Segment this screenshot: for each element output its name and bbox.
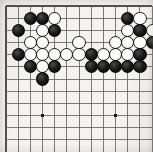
black-stone[interactable] (133, 60, 146, 73)
black-stone[interactable] (24, 12, 37, 25)
white-stone[interactable] (48, 12, 61, 25)
white-stone[interactable] (72, 48, 85, 61)
black-stone[interactable] (133, 24, 146, 37)
white-stone[interactable] (133, 12, 146, 25)
star-point (114, 114, 117, 117)
go-board-figure (0, 0, 153, 152)
star-point (41, 114, 44, 117)
black-stone[interactable] (12, 48, 25, 61)
black-stone[interactable] (36, 72, 49, 85)
go-board[interactable] (0, 0, 153, 152)
black-stone[interactable] (12, 24, 25, 37)
